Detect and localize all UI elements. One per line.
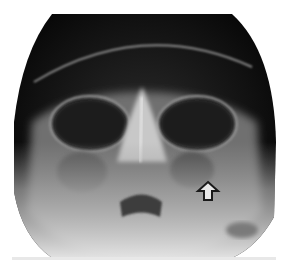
film-bottom-edge [12, 257, 276, 260]
image-frame [0, 0, 284, 266]
skull-xray-image [12, 12, 276, 260]
